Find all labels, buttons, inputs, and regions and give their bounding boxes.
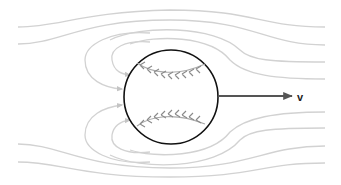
baseball [124, 50, 218, 144]
velocity-label: v [297, 91, 303, 103]
streamline-top-1 [18, 10, 325, 27]
baseball-airflow-diagram [0, 0, 341, 185]
streamline-top-3 [110, 30, 325, 62]
